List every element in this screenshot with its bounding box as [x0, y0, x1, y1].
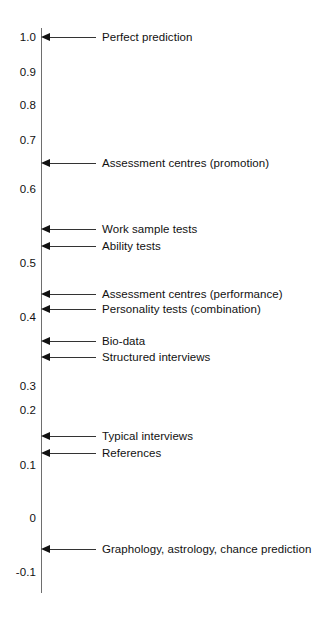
leader-line: [50, 309, 96, 310]
axis-tick-0p3: 0.3: [0, 380, 36, 392]
leader-line: [50, 436, 96, 437]
annotation-row: Structured interviews: [41, 351, 210, 363]
annotation-row: Bio-data: [41, 335, 145, 347]
annotation-label: Bio-data: [96, 335, 145, 347]
leader-line: [50, 163, 96, 164]
annotation-label: Ability tests: [96, 240, 161, 252]
leader-line: [50, 294, 96, 295]
arrow-left-icon: [41, 432, 50, 441]
annotation-label: Assessment centres (promotion): [96, 157, 269, 169]
axis-tick-0: 0: [0, 512, 36, 524]
annotation-row: Graphology, astrology, chance prediction: [41, 543, 311, 555]
arrow-left-icon: [41, 305, 50, 314]
arrow-left-icon: [41, 337, 50, 346]
axis-tick-label: 0.6: [0, 183, 36, 195]
leader-line: [50, 453, 96, 454]
leader-line: [50, 229, 96, 230]
arrow-left-icon: [41, 33, 50, 42]
axis-tick-label: 0.3: [0, 380, 36, 392]
leader-line: [50, 357, 96, 358]
annotation-row: References: [41, 447, 161, 459]
annotation-row: Assessment centres (promotion): [41, 157, 269, 169]
arrow-left-icon: [41, 545, 50, 554]
axis-tick-neg0p1: -0.1: [0, 566, 36, 578]
leader-line: [50, 246, 96, 247]
annotation-label: Typical interviews: [96, 430, 193, 442]
axis-tick-label: 0.1: [0, 459, 36, 471]
axis-tick-label: 0: [0, 512, 36, 524]
axis-tick-1p0: 1.0: [0, 31, 36, 43]
annotation-label: Perfect prediction: [96, 31, 192, 43]
annotation-label: Graphology, astrology, chance prediction: [96, 543, 311, 555]
annotation-row: Personality tests (combination): [41, 303, 261, 315]
axis-tick-0p4: 0.4: [0, 311, 36, 323]
annotation-row: Assessment centres (performance): [41, 288, 283, 300]
axis-tick-0p6: 0.6: [0, 183, 36, 195]
annotation-label: Structured interviews: [96, 351, 210, 363]
axis-tick-label: 0.7: [0, 134, 36, 146]
axis-tick-label: -0.1: [0, 566, 36, 578]
axis-tick-label: 1.0: [0, 31, 36, 43]
axis-tick-0p5: 0.5: [0, 257, 36, 269]
annotation-label: Personality tests (combination): [96, 303, 261, 315]
axis-tick-label: 0.5: [0, 257, 36, 269]
annotation-row: Ability tests: [41, 240, 161, 252]
annotation-label: References: [96, 447, 161, 459]
arrow-left-icon: [41, 159, 50, 168]
arrow-left-icon: [41, 353, 50, 362]
annotation-row: Perfect prediction: [41, 31, 192, 43]
annotation-row: Work sample tests: [41, 223, 197, 235]
leader-line: [50, 341, 96, 342]
axis-tick-0p7: 0.7: [0, 134, 36, 146]
leader-line: [50, 549, 96, 550]
leader-line: [50, 37, 96, 38]
axis-tick-label: 0.9: [0, 66, 36, 78]
axis-tick-0p9: 0.9: [0, 66, 36, 78]
arrow-left-icon: [41, 242, 50, 251]
axis-tick-label: 0.8: [0, 99, 36, 111]
annotation-row: Typical interviews: [41, 430, 193, 442]
arrow-left-icon: [41, 290, 50, 299]
axis-tick-0p2: 0.2: [0, 404, 36, 416]
axis-tick-0p8: 0.8: [0, 99, 36, 111]
axis-tick-label: 0.2: [0, 404, 36, 416]
annotation-label: Work sample tests: [96, 223, 197, 235]
arrow-left-icon: [41, 225, 50, 234]
arrow-left-icon: [41, 449, 50, 458]
axis-tick-label: 0.4: [0, 311, 36, 323]
validity-coefficient-chart: 1.00.90.80.70.60.50.40.30.20.10-0.1 Perf…: [0, 0, 314, 618]
axis-tick-0p1: 0.1: [0, 459, 36, 471]
annotation-label: Assessment centres (performance): [96, 288, 283, 300]
